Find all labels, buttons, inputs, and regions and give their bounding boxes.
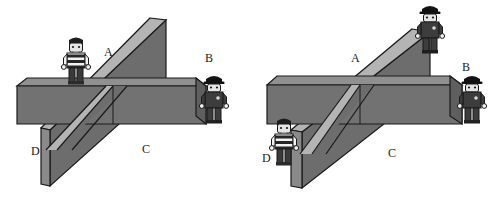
officer-foot-left <box>464 120 472 124</box>
figure-foot-right <box>284 162 292 166</box>
officer-cap <box>206 76 222 82</box>
officer-leg-right <box>215 108 221 122</box>
officer-cap <box>464 76 480 82</box>
figure-face <box>70 43 83 52</box>
officer-arm-left <box>202 93 206 104</box>
figure-hand-left <box>269 146 274 151</box>
label-c: C <box>388 147 396 159</box>
prisoner-glyph <box>60 36 92 86</box>
figure-leg-right <box>285 149 291 164</box>
officer-leg-left <box>465 108 471 122</box>
diagram-canvas: A B C D <box>0 0 499 201</box>
officer-eye-right <box>432 16 434 18</box>
officer-foot-right <box>472 120 480 124</box>
officer-arm-left <box>418 23 422 34</box>
officer-glyph <box>198 74 230 126</box>
right-diagram-panel: A B C D <box>250 0 499 201</box>
officer-glyph <box>414 4 446 56</box>
officer-cap <box>422 6 438 12</box>
right-beam-top-face <box>267 76 462 85</box>
figure-striped-torso <box>67 53 85 68</box>
officer-badge <box>432 26 436 30</box>
officer-foot-right <box>430 50 438 54</box>
officer-arm-right <box>439 23 443 34</box>
figure-eye-right <box>286 127 288 129</box>
figure-eye-left <box>72 46 74 48</box>
figure-arm-left <box>272 135 276 146</box>
figure-arm-right <box>85 54 89 65</box>
label-a: A <box>104 46 113 58</box>
officer-arm-right <box>481 93 485 104</box>
officer-badge <box>474 96 478 100</box>
officer-eye-right <box>474 86 476 88</box>
officer-leg-right <box>473 108 479 122</box>
figure-face <box>278 124 291 133</box>
figure-leg-left <box>69 68 75 83</box>
officer-hand-left <box>457 104 462 109</box>
officer-face <box>208 84 221 92</box>
figure-hand-right <box>294 146 299 151</box>
prisoner-glyph <box>268 117 300 167</box>
figure-foot-right <box>76 81 84 85</box>
figure-foot-left <box>68 81 76 85</box>
figure-striped-torso <box>275 134 293 149</box>
left-beam-top-face <box>17 78 206 86</box>
officer-badge <box>216 96 220 100</box>
officer-foot-left <box>422 50 430 54</box>
label-a: A <box>351 52 360 64</box>
officer-face <box>424 14 437 22</box>
left-horizontal-beam <box>17 78 206 124</box>
figure-leg-right <box>77 68 83 83</box>
officer-glyph <box>456 74 488 126</box>
officer-eye-right <box>216 86 218 88</box>
figure-eye-left <box>280 127 282 129</box>
officer-eye-left <box>426 16 428 18</box>
figure-hand-right <box>86 65 91 70</box>
officer-leg-left <box>423 38 429 52</box>
label-b: B <box>205 52 213 64</box>
officer-torso <box>421 22 439 38</box>
officer-leg-left <box>207 108 213 122</box>
left-ramp-bottom-cap <box>41 128 50 186</box>
officer-hand-left <box>415 34 420 39</box>
officer-hand-right <box>482 104 487 109</box>
officer-eye-left <box>468 86 470 88</box>
figure-hand-left <box>61 65 66 70</box>
officer-hand-right <box>440 34 445 39</box>
label-c: C <box>142 143 150 155</box>
officer-arm-left <box>460 93 464 104</box>
officer-face <box>466 84 479 92</box>
left-diagram-panel: A B C D <box>0 0 249 201</box>
officer-torso <box>205 92 223 108</box>
officer-arm-right <box>223 93 227 104</box>
officer-foot-left <box>206 120 214 124</box>
label-b: B <box>462 61 470 73</box>
figure-arm-left <box>64 54 68 65</box>
figure-leg-left <box>277 149 283 164</box>
officer-hand-left <box>199 104 204 109</box>
figure-arm-right <box>293 135 297 146</box>
officer-torso <box>463 92 481 108</box>
officer-leg-right <box>431 38 437 52</box>
figure-foot-left <box>276 162 284 166</box>
officer-foot-right <box>214 120 222 124</box>
label-d: D <box>31 145 40 157</box>
figure-eye-right <box>78 46 80 48</box>
officer-hand-right <box>224 104 229 109</box>
officer-eye-left <box>210 86 212 88</box>
